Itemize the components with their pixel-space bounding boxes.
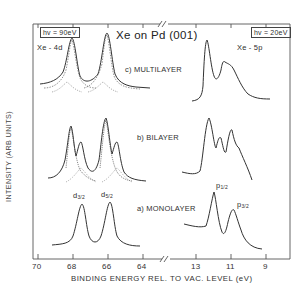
series-5p-bilayer: [182, 118, 252, 180]
species-label-4d: Xe - 4d: [37, 44, 63, 52]
species-label-5p: Xe - 5p: [237, 44, 263, 52]
photon-energy-right-badge: hv = 20eV: [251, 27, 291, 38]
series-4d-multilayer: [40, 33, 150, 92]
series-5p-monolayer: [184, 192, 262, 249]
x-tick-11: 11: [226, 263, 235, 271]
series-4d-monolayer: [52, 202, 140, 246]
x-tick-9: 9: [263, 263, 268, 271]
x-tick-68: 68: [67, 263, 76, 271]
peak-label-p32: p3/2: [237, 201, 249, 209]
series-label-multilayer: c) MULTILAYER: [125, 66, 182, 74]
x-tick-64: 64: [137, 263, 146, 271]
peak-label-d32: d3/2: [73, 192, 85, 200]
peak-label-p12: p1/2: [216, 182, 228, 190]
x-tick-66: 66: [102, 263, 111, 271]
y-axis-label: INTENSITY (ARB UNITS): [4, 111, 13, 202]
x-tick-70: 70: [32, 263, 41, 271]
chart-title: Xe on Pd (001): [116, 30, 198, 42]
photon-energy-left-badge: hv = 90eV: [40, 27, 80, 38]
series-label-monolayer: a) MONOLAYER: [137, 205, 196, 213]
x-tick-13: 13: [191, 263, 200, 271]
series-label-bilayer: b) BILAYER: [137, 134, 179, 142]
series-4d-bilayer: [48, 118, 146, 182]
peak-label-d52: d5/2: [101, 191, 113, 199]
x-axis-label: BINDING ENERGY REL. TO VAC. LEVEL (eV): [71, 275, 253, 283]
